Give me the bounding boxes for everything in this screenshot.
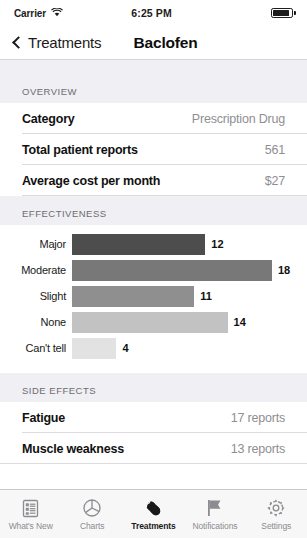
row-label: Category [22,112,75,126]
table-row[interactable]: Muscle weakness 13 reports [0,433,307,464]
chart-bar-row: Moderate 18 [0,259,307,281]
table-row[interactable]: Average cost per month $27 [0,165,307,196]
chart-bar-row: Can't tell 4 [0,337,307,359]
back-button-label: Treatments [28,34,101,51]
chart-bar-value: 18 [278,264,290,276]
row-value: 17 reports [231,411,285,425]
tab-label: Settings [261,521,291,531]
overview-top-spacer [0,60,307,74]
tab-treatments[interactable]: Treatments [123,490,184,538]
chart-bar-label: Slight [0,290,72,302]
row-label: Muscle weakness [22,442,124,456]
tab-label: What's New [9,521,53,531]
pill-icon [143,497,164,519]
row-value: 561 [265,143,285,157]
battery-icon [271,8,296,18]
tab-whats-new[interactable]: What's New [0,490,61,538]
tab-settings[interactable]: Settings [246,490,307,538]
status-bar-left: Carrier [14,8,63,19]
back-button[interactable]: Treatments [14,34,101,51]
app-screen: Carrier 6:25 PM Treatments Baclofen [0,0,307,538]
tab-charts[interactable]: Charts [61,490,122,538]
chart-bar-label: None [0,316,72,328]
chart-bar-row: Slight 11 [0,285,307,307]
chart-bar-value: 12 [211,238,223,250]
chart-bar-track: 12 [72,234,307,255]
chart-bar-track: 11 [72,286,307,307]
status-bar: Carrier 6:25 PM [0,0,307,26]
chart-bar [72,338,116,359]
chart-bar-value: 14 [234,316,246,328]
chart-bar-track: 18 [72,260,307,281]
chart-bar [72,286,194,307]
chart-bar-label: Moderate [0,264,72,276]
chart-bar-row: Major 12 [0,233,307,255]
tab-label: Notifications [192,521,237,531]
tab-notifications[interactable]: Notifications [184,490,245,538]
chart-bar-value: 11 [200,290,212,302]
pie-chart-icon [82,497,102,519]
chart-bar-value: 4 [122,342,128,354]
row-value: $27 [265,174,285,188]
chart-bar-label: Major [0,238,72,250]
tab-label: Treatments [131,521,175,531]
section-header-side-effects: SIDE EFFECTS [0,373,307,402]
clock-label: 6:25 PM [63,7,240,19]
list-icon [21,497,40,519]
chevron-left-icon [12,36,25,49]
chart-bar [72,234,205,255]
table-row[interactable]: Total patient reports 561 [0,134,307,165]
chart-bar-track: 4 [72,338,307,359]
status-bar-right [240,8,296,18]
chart-bar [72,312,228,333]
chart-bar-label: Can't tell [0,342,72,354]
tab-bar: What's New Charts [0,489,307,538]
chart-bar-track: 14 [72,312,307,333]
scroll-content[interactable]: OVERVIEW Category Prescription Drug Tota… [0,60,307,489]
section-header-overview: OVERVIEW [0,74,307,103]
row-label: Fatigue [22,411,65,425]
row-label: Average cost per month [22,174,160,188]
tab-label: Charts [80,521,104,531]
chart-bar [72,260,272,281]
section-header-effectiveness: EFFECTIVENESS [0,196,307,225]
table-row[interactable]: Category Prescription Drug [0,103,307,134]
row-value: 13 reports [231,442,285,456]
wifi-icon [51,8,63,19]
row-label: Total patient reports [22,143,138,157]
chart-bar-row: None 14 [0,311,307,333]
row-value: Prescription Drug [192,112,285,126]
navigation-bar: Treatments Baclofen [0,26,307,60]
flag-icon [205,497,224,519]
effectiveness-bar-chart: Major 12 Moderate 18 Slight 11 [0,225,307,373]
carrier-label: Carrier [14,8,46,19]
table-row[interactable]: Fatigue 17 reports [0,402,307,433]
gear-icon [266,497,286,519]
